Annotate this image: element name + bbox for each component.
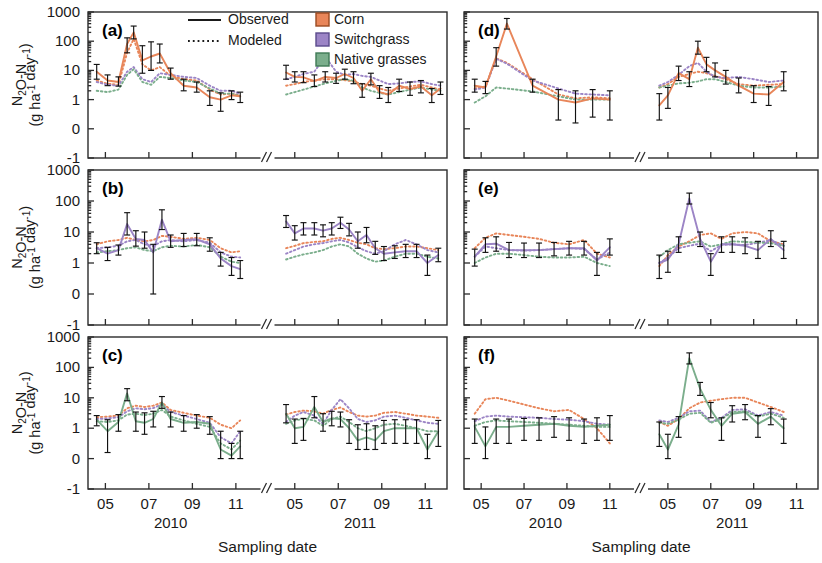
y-tick-label: 0	[72, 285, 80, 302]
x-tick-label-2010: 11	[228, 495, 244, 512]
y-tick-label: 10	[63, 389, 80, 406]
legend-label-switchgrass: Switchgrass	[334, 31, 409, 47]
legend-swatch-corn	[316, 13, 329, 26]
series-modeled-e	[475, 254, 610, 266]
figure-root: (a)(b)(c)(d)(e)(f)10001001010-1N2O-N(g h…	[0, 0, 822, 563]
x-tick-label-2010: 05	[473, 495, 490, 512]
y-axis-row-1: 10001001010-1N2O-N(g ha-1 day-1)	[9, 161, 80, 333]
x-year-label-2011: 2011	[344, 514, 376, 531]
y-tick-label: 1	[72, 419, 80, 436]
series-observed-b	[97, 220, 241, 270]
x-axis-title: Sampling date	[591, 538, 690, 555]
x-tick-label-2010: 07	[141, 495, 158, 512]
y-tick-label: 100	[55, 358, 80, 375]
figure-svg: (a)(b)(c)(d)(e)(f)10001001010-1N2O-N(g h…	[0, 0, 822, 563]
x-year-label-2010: 2010	[529, 514, 562, 531]
x-axis-title: Sampling date	[218, 538, 317, 555]
series-observed-d	[659, 48, 783, 106]
legend: ObservedModeledCornSwitchgrassNative gra…	[188, 11, 427, 67]
panel-label-f: (f)	[478, 346, 495, 365]
x-tick-label-2011: 05	[286, 495, 303, 512]
x-year-label-2011: 2011	[716, 514, 748, 531]
panel-e: (e)	[464, 170, 818, 329]
legend-observed-label: Observed	[228, 11, 289, 27]
y-axis-row-0: 10001001010-1N2O-N(g ha-1 day-1)	[9, 3, 80, 166]
x-tick-label-2010: 05	[97, 495, 114, 512]
panel-content-e	[472, 193, 787, 278]
y-axis-row-2: 10001001010-1N2O-N(g ha-1 day-1)	[9, 328, 80, 497]
x-tick-label-2010: 07	[516, 495, 533, 512]
panel-label-a: (a)	[102, 21, 123, 40]
y-tick-label: 0	[72, 120, 80, 137]
x-tick-label-2011: 09	[373, 495, 390, 512]
x-tick-label-2010: 09	[559, 495, 576, 512]
panel-label-e: (e)	[478, 179, 499, 198]
x-tick-label-2011: 11	[417, 495, 433, 512]
legend-swatch-native-grasses	[316, 53, 329, 66]
x-tick-label-2011: 05	[660, 495, 677, 512]
x-axis-labels: 050507070909111120102011Sampling date050…	[97, 495, 804, 555]
legend-modeled-label: Modeled	[228, 32, 282, 48]
panel-f: (f)	[464, 337, 818, 493]
x-tick-label-2011: 07	[702, 495, 719, 512]
y-tick-label: 1	[72, 91, 80, 108]
panel-content-d	[472, 18, 787, 122]
series-modeled-a	[97, 39, 241, 95]
y-tick-label: 1	[72, 254, 80, 271]
panel-label-d: (d)	[478, 21, 500, 40]
panel-content-c	[94, 389, 442, 459]
panel-content-b	[94, 210, 442, 294]
y-tick-label: 100	[55, 192, 80, 209]
y-tick-label: 10	[63, 61, 80, 78]
panel-content-f	[472, 353, 787, 459]
y-tick-label: 0	[72, 450, 80, 467]
legend-label-native-grasses: Native grasses	[334, 51, 427, 67]
panel-c: (c)	[88, 337, 447, 493]
x-year-label-2010: 2010	[154, 514, 187, 531]
panel-b: (b)	[88, 170, 447, 329]
x-tick-label-2011: 07	[330, 495, 347, 512]
y-tick-label: 1000	[47, 328, 80, 345]
panel-d: (d)	[464, 12, 818, 162]
panel-label-b: (b)	[102, 179, 124, 198]
y-tick-label: 100	[55, 32, 80, 49]
legend-swatch-switchgrass	[316, 33, 329, 46]
y-tick-label: 1000	[47, 3, 80, 20]
x-tick-label-2011: 09	[745, 495, 762, 512]
x-tick-label-2010: 09	[184, 495, 201, 512]
y-tick-label: -1	[67, 480, 80, 497]
series-observed-e	[659, 199, 783, 264]
panel-label-c: (c)	[102, 346, 123, 365]
x-tick-label-2011: 11	[789, 495, 805, 512]
x-tick-label-2010: 11	[602, 495, 618, 512]
legend-label-corn: Corn	[334, 11, 364, 27]
y-tick-label: 1000	[47, 161, 80, 178]
y-tick-label: 10	[63, 223, 80, 240]
panel-frame-e	[464, 170, 818, 325]
